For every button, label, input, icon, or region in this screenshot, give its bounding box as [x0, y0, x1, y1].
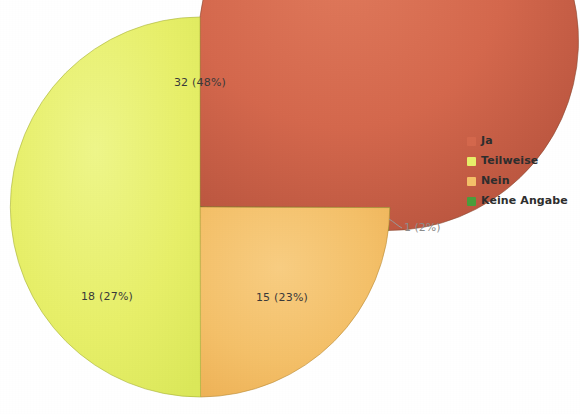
legend-swatch-icon: [467, 137, 476, 146]
pie-slice-teilweise[interactable]: [10, 17, 200, 397]
slice-label-teilweise: 18 (27%): [81, 290, 133, 303]
chart-legend: Ja Teilweise Nein Keine Angabe: [467, 131, 580, 211]
legend-item-label: Ja: [481, 131, 493, 151]
legend-item-teilweise[interactable]: Teilweise: [467, 151, 580, 171]
slice-label-keine-angabe: 1 (2%): [404, 221, 441, 234]
pie-chart-figure: 32 (48%) 1 (2%) 15 (23%) 18 (27%) Ja Tei…: [0, 0, 580, 414]
legend-item-label: Nein: [481, 171, 510, 191]
legend-item-nein[interactable]: Nein: [467, 171, 580, 191]
legend-swatch-icon: [467, 177, 476, 186]
legend-item-keine-angabe[interactable]: Keine Angabe: [467, 191, 580, 211]
legend-item-label: Teilweise: [481, 151, 538, 171]
legend-item-ja[interactable]: Ja: [467, 131, 580, 151]
legend-swatch-icon: [467, 197, 476, 206]
legend-swatch-icon: [467, 157, 476, 166]
slice-label-ja: 32 (48%): [174, 76, 226, 89]
legend-item-label: Keine Angabe: [481, 191, 568, 211]
slice-label-nein: 15 (23%): [256, 291, 308, 304]
